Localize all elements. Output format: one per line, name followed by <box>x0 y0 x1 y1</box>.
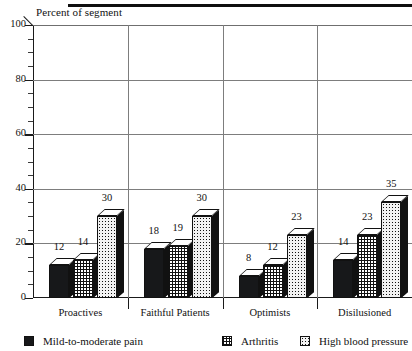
y-tick-label-0: 0 <box>0 291 26 302</box>
bar-front-face <box>239 276 259 298</box>
bar-front-face <box>73 260 93 298</box>
y-minor-tick-50 <box>28 162 33 163</box>
bar-chart: Percent of segment 020406080100 12143018… <box>0 0 412 351</box>
bar[interactable]: 14 <box>333 260 353 298</box>
y-minor-tick-95 <box>28 39 33 40</box>
y-minor-tick-65 <box>28 121 33 122</box>
plot-area: 12143018193081223142335 <box>33 25 412 298</box>
y-minor-tick-30 <box>28 216 33 217</box>
bar-value-label: 30 <box>92 192 122 203</box>
y-tick-label-80: 80 <box>0 73 26 84</box>
y-minor-tick-25 <box>28 230 33 231</box>
bar-value-label: 35 <box>376 178 406 189</box>
bar[interactable]: 12 <box>49 265 69 298</box>
category-separator-2 <box>223 25 224 298</box>
solid-swatch-icon <box>24 336 34 346</box>
bar-value-label: 30 <box>187 192 217 203</box>
bar[interactable]: 12 <box>263 265 283 298</box>
x-axis-label-2: Optimists <box>223 307 318 318</box>
y-minor-tick-35 <box>28 202 33 203</box>
y-tick-label-40: 40 <box>0 182 26 193</box>
bar-front-face <box>144 249 164 298</box>
legend-item-0[interactable]: Mild-to-moderate pain <box>24 330 143 351</box>
y-minor-tick-70 <box>28 107 33 108</box>
bar-front-face <box>381 202 401 298</box>
y-tick-0 <box>25 298 33 299</box>
bar-side-face <box>401 196 408 298</box>
category-separator-3 <box>317 25 318 298</box>
dotted-swatch-icon <box>300 336 310 346</box>
x-axis-label-0: Proactives <box>33 307 128 318</box>
y-minor-tick-10 <box>28 271 33 272</box>
bar-value-label: 12 <box>258 241 288 252</box>
bar-front-face <box>263 265 283 298</box>
chart-legend: Mild-to-moderate painArthritisHigh blood… <box>0 330 412 351</box>
y-tick-100 <box>25 25 33 26</box>
y-tick-label-20: 20 <box>0 236 26 247</box>
y-tick-80 <box>25 80 33 81</box>
y-tick-20 <box>25 243 33 244</box>
bar-value-label: 14 <box>68 236 98 247</box>
bar[interactable]: 23 <box>357 235 377 298</box>
bar-front-face <box>287 235 307 298</box>
y-tick-label-60: 60 <box>0 127 26 138</box>
bar-front-face <box>192 216 212 298</box>
grid-swatch-icon <box>222 336 232 346</box>
bar[interactable]: 30 <box>97 216 117 298</box>
bar-value-label: 8 <box>234 252 264 263</box>
bar-side-face <box>307 229 314 298</box>
y-minor-tick-45 <box>28 175 33 176</box>
legend-label: Mild-to-moderate pain <box>43 335 143 347</box>
y-tick-40 <box>25 189 33 190</box>
category-separator-1 <box>128 25 129 298</box>
bar-side-face <box>117 210 124 298</box>
y-minor-tick-85 <box>28 66 33 67</box>
legend-item-1[interactable]: Arthritis <box>222 330 278 351</box>
bar[interactable]: 23 <box>287 235 307 298</box>
y-minor-tick-5 <box>28 284 33 285</box>
bar-value-label: 19 <box>163 222 193 233</box>
legend-item-2[interactable]: High blood pressure <box>300 330 408 351</box>
bar[interactable]: 14 <box>73 260 93 298</box>
y-axis-title: Percent of segment <box>36 6 122 18</box>
y-minor-tick-55 <box>28 148 33 149</box>
y-minor-tick-75 <box>28 93 33 94</box>
legend-label: High blood pressure <box>319 335 408 347</box>
bar-front-face <box>168 246 188 298</box>
bar-value-label: 23 <box>352 211 382 222</box>
y-tick-60 <box>25 134 33 135</box>
x-axis-label-1: Faithful Patients <box>128 307 223 318</box>
y-axis-tick-labels: 020406080100 <box>0 25 26 298</box>
bar[interactable]: 18 <box>144 249 164 298</box>
y-minor-tick-15 <box>28 257 33 258</box>
x-axis-label-3: Disilusioned <box>317 307 412 318</box>
bar-front-face <box>333 260 353 298</box>
bar[interactable]: 35 <box>381 202 401 298</box>
bar-front-face <box>97 216 117 298</box>
bar-front-face <box>49 265 69 298</box>
bar-value-label: 23 <box>282 211 312 222</box>
legend-label: Arthritis <box>241 335 278 347</box>
y-minor-tick-90 <box>28 52 33 53</box>
bar[interactable]: 30 <box>192 216 212 298</box>
bar-value-label: 14 <box>328 236 358 247</box>
bar-front-face <box>357 235 377 298</box>
bar[interactable]: 8 <box>239 276 259 298</box>
bar[interactable]: 19 <box>168 246 188 298</box>
bar-side-face <box>212 210 219 298</box>
